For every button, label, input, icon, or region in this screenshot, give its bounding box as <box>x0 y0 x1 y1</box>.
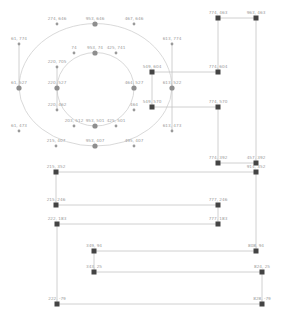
node-square-icon[interactable] <box>150 70 155 75</box>
node-dot-icon[interactable] <box>92 143 97 148</box>
round-node[interactable]: 425, 741 <box>107 45 126 55</box>
node-label: 953, 501 <box>86 118 105 123</box>
node-dot-icon[interactable] <box>54 85 59 90</box>
node-label: 467, 646 <box>125 16 144 21</box>
node-label: 274, 646 <box>48 16 67 21</box>
node-dot-icon[interactable] <box>16 85 21 90</box>
square-node[interactable]: 774, 463 <box>209 10 228 21</box>
node-label: 613, 522 <box>163 80 182 85</box>
node-label: 777, 246 <box>209 197 228 202</box>
node-dot-icon[interactable] <box>56 109 59 112</box>
square-node[interactable]: 349, 94 <box>86 243 102 254</box>
node-square-icon[interactable] <box>216 203 221 208</box>
round-node[interactable]: 425, 501 <box>107 118 126 128</box>
node-square-icon[interactable] <box>92 249 97 254</box>
node-dot-icon[interactable] <box>92 123 97 128</box>
square-node[interactable]: 914, 352 <box>247 164 266 175</box>
node-label: 914, 352 <box>247 164 266 169</box>
node-dot-icon[interactable] <box>73 52 76 55</box>
node-label: 61, 774 <box>11 36 27 41</box>
node-dot-icon[interactable] <box>115 125 118 128</box>
node-square-icon[interactable] <box>55 302 60 307</box>
node-dot-icon[interactable] <box>18 43 21 46</box>
node-square-icon[interactable] <box>260 270 265 275</box>
node-dot-icon[interactable] <box>133 23 136 26</box>
node-label: 349, 94 <box>86 243 102 248</box>
node-label: 824, 25 <box>254 264 270 269</box>
diagram-canvas: 274, 646953, 646467, 64661, 774613, 7749… <box>0 0 283 316</box>
round-node[interactable]: 215, 407 <box>47 138 66 148</box>
node-square-icon[interactable] <box>54 170 59 175</box>
node-dot-icon[interactable] <box>18 130 21 133</box>
node-dot-icon[interactable] <box>73 125 76 128</box>
node-label: 549, 570 <box>143 99 162 104</box>
node-label: 220, 527 <box>48 80 67 85</box>
node-label: 343, 25 <box>86 264 102 269</box>
node-label: 74 <box>71 45 77 50</box>
node-label: 457, 392 <box>247 155 266 160</box>
square-node[interactable]: 222, 183 <box>48 216 67 227</box>
node-square-icon[interactable] <box>254 170 259 175</box>
round-node[interactable]: 953, 74 <box>87 45 103 56</box>
node-dot-icon[interactable] <box>171 130 174 133</box>
square-node[interactable]: 963, 463 <box>247 10 266 21</box>
node-label: 808, 94 <box>248 243 264 248</box>
square-node[interactable]: 824, 25 <box>254 264 270 275</box>
node-dot-icon[interactable] <box>56 66 59 69</box>
node-label: 828, -79 <box>253 296 271 301</box>
square-node[interactable]: 774, 570 <box>209 99 228 110</box>
node-square-icon[interactable] <box>216 161 221 166</box>
node-label: 215, 407 <box>47 138 66 143</box>
node-square-icon[interactable] <box>254 249 259 254</box>
square-node[interactable]: 549, 604 <box>143 64 162 75</box>
node-label: 613, 774 <box>163 36 182 41</box>
round-node[interactable]: 203, 512 <box>65 118 84 128</box>
round-node[interactable]: 220, 705 <box>48 59 67 69</box>
node-square-icon[interactable] <box>260 302 265 307</box>
node-dot-icon[interactable] <box>133 109 136 112</box>
square-node[interactable]: 777, 246 <box>209 197 228 208</box>
node-label: 464, 527 <box>125 80 144 85</box>
round-node[interactable]: 464 <box>130 102 138 112</box>
node-dot-icon[interactable] <box>131 85 136 90</box>
node-dot-icon[interactable] <box>169 85 174 90</box>
node-dot-icon[interactable] <box>92 50 97 55</box>
round-node[interactable]: 467, 646 <box>125 16 144 26</box>
node-square-icon[interactable] <box>216 70 221 75</box>
node-square-icon[interactable] <box>92 270 97 275</box>
node-label: 425, 741 <box>107 45 126 50</box>
round-node[interactable]: 613, 473 <box>163 123 182 133</box>
round-node[interactable]: 953, 646 <box>86 16 105 27</box>
node-label: 220, 705 <box>48 59 67 64</box>
round-node[interactable]: 74 <box>71 45 77 55</box>
node-square-icon[interactable] <box>254 16 259 21</box>
node-square-icon[interactable] <box>150 105 155 110</box>
square-node[interactable]: 215, 352 <box>47 164 66 175</box>
node-dot-icon[interactable] <box>55 145 58 148</box>
node-square-icon[interactable] <box>54 203 59 208</box>
inner-arc <box>57 53 134 126</box>
node-label: 222, 183 <box>48 216 67 221</box>
round-node[interactable]: 61, 774 <box>11 36 27 46</box>
round-node[interactable]: 953, 407 <box>86 138 105 149</box>
node-dot-icon[interactable] <box>115 52 118 55</box>
node-label: 953, 646 <box>86 16 105 21</box>
node-label: 425, 501 <box>107 118 126 123</box>
node-square-icon[interactable] <box>55 222 60 227</box>
round-node[interactable]: 61, 473 <box>11 123 27 133</box>
node-dot-icon[interactable] <box>171 43 174 46</box>
round-node[interactable]: 613, 774 <box>163 36 182 46</box>
node-label: 203, 512 <box>65 118 84 123</box>
node-square-icon[interactable] <box>216 105 221 110</box>
edge-layer <box>56 18 262 304</box>
node-dot-icon[interactable] <box>133 145 136 148</box>
round-node[interactable]: 274, 646 <box>48 16 67 26</box>
node-dot-icon[interactable] <box>92 21 97 26</box>
round-node[interactable]: 953, 501 <box>86 118 105 129</box>
node-square-icon[interactable] <box>216 222 221 227</box>
node-dot-icon[interactable] <box>56 23 59 26</box>
node-square-icon[interactable] <box>216 16 221 21</box>
node-label: 774, 570 <box>209 99 228 104</box>
round-node[interactable]: 495, 407 <box>125 138 144 148</box>
node-label: 613, 473 <box>163 123 182 128</box>
